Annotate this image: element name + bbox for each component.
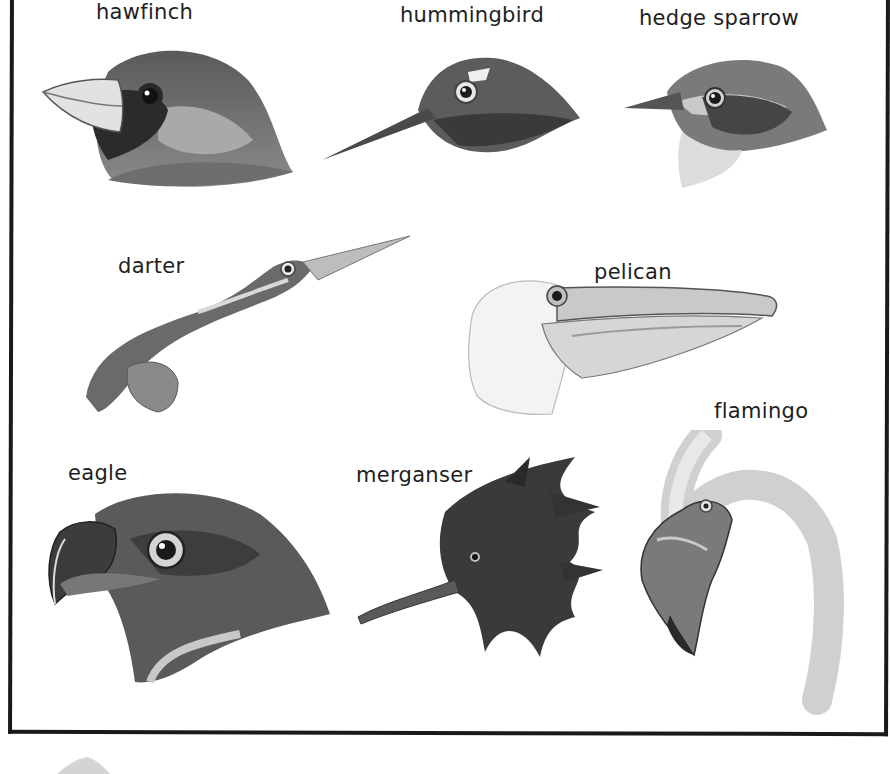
darter-illustration xyxy=(78,232,418,422)
hawfinch-illustration xyxy=(38,40,298,190)
pelican-head-icon xyxy=(462,266,782,416)
flamingo-head-neck-icon xyxy=(632,430,867,720)
feather-sketch-icon xyxy=(52,755,112,774)
hawfinch-head-icon xyxy=(38,40,298,190)
merganser-head-icon xyxy=(355,452,605,677)
hedge-sparrow-illustration xyxy=(622,52,832,192)
eagle-illustration xyxy=(40,484,335,684)
merganser-illustration xyxy=(355,452,605,677)
hummingbird-illustration xyxy=(318,50,588,165)
label-hedge-sparrow: hedge sparrow xyxy=(639,8,799,29)
hummingbird-head-icon xyxy=(318,50,588,165)
darter-head-neck-icon xyxy=(78,232,418,422)
label-eagle: eagle xyxy=(68,463,127,484)
hedge-sparrow-head-icon xyxy=(622,52,832,192)
cropped-sketch-fragment xyxy=(52,755,112,774)
label-hawfinch: hawfinch xyxy=(96,2,193,23)
eagle-head-icon xyxy=(40,484,335,684)
pelican-illustration xyxy=(462,266,782,416)
flamingo-illustration xyxy=(632,430,867,720)
label-hummingbird: hummingbird xyxy=(400,5,544,26)
